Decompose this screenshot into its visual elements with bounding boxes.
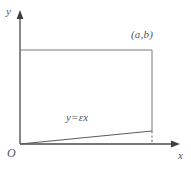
y-axis-arrowhead [17,10,24,19]
math-figure: y x O (a,b) y=εx [0,0,191,170]
x-axis-label: x [178,150,183,161]
y-axis [17,10,24,144]
x-axis-arrowhead [171,141,180,148]
epsilon-line [20,131,152,144]
corner-point-label: (a,b) [131,29,153,40]
figure-canvas [0,0,191,170]
origin-label: O [7,147,16,159]
line-equation-label: y=εx [66,112,88,123]
y-axis-label: y [6,6,11,17]
